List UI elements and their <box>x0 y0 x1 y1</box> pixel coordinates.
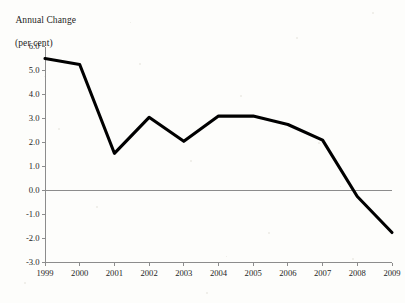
scan-speck <box>296 37 298 39</box>
x-axis-ticks <box>45 263 392 267</box>
scan-speck <box>44 76 45 77</box>
scan-speck <box>96 206 98 208</box>
scan-speck <box>268 232 270 234</box>
scan-speck <box>206 292 208 294</box>
plot-area <box>0 0 405 303</box>
scan-speck <box>139 63 141 65</box>
scan-speck <box>340 186 341 187</box>
scan-speck <box>318 142 320 144</box>
axis-lines <box>45 47 392 263</box>
scan-speck <box>58 128 60 130</box>
chart-container: Annual Change (per cent) 6.05.04.03.02.0… <box>0 0 405 303</box>
scan-speck <box>352 258 354 260</box>
y-axis-ticks <box>42 47 46 263</box>
scan-speck <box>372 12 374 14</box>
scan-speck <box>240 95 242 97</box>
scan-speck <box>226 256 227 257</box>
scan-speck <box>24 282 26 284</box>
scan-speck <box>130 22 131 23</box>
scan-speck <box>190 160 192 162</box>
